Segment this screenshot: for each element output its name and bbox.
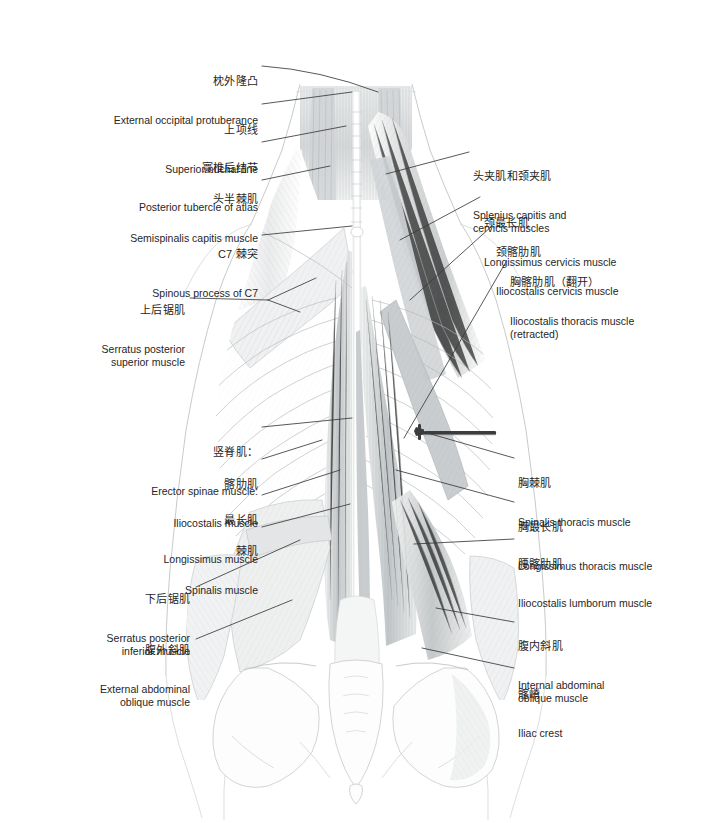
label-serratus-posterior-superior-muscle: 上后锯肌 Serratus posterior superior muscle: [45, 277, 185, 395]
label-cn: 下后锯肌: [50, 592, 190, 606]
label-cn: 髂嵴: [518, 687, 711, 701]
label-cn: 头夹肌和颈夹肌: [473, 169, 703, 183]
label-en: Serratus posterior superior muscle: [45, 343, 185, 369]
label-cn: 腹内斜肌: [518, 639, 711, 653]
label-cn: 棘肌: [58, 544, 258, 558]
label-iliocostalis-thoracis-muscle-retracted: 胸髂肋肌（翻开） Iliocostalis thoracis muscle (r…: [510, 249, 711, 367]
label-en: Iliac crest: [518, 727, 711, 740]
label-cn: 胸髂肋肌（翻开）: [510, 275, 711, 289]
label-cn: 胸棘肌: [518, 476, 711, 490]
anatomy-plate: 枕外隆凸 External occipital protuberance 上项线…: [0, 0, 711, 823]
label-en: External abdominal oblique muscle: [50, 683, 190, 709]
label-cn: C7 棘突: [58, 247, 258, 261]
label-cn: 腹外斜肌: [50, 643, 190, 657]
label-en: Iliocostalis thoracis muscle (retracted): [510, 315, 711, 341]
label-cn: 枕外隆凸: [58, 74, 258, 88]
label-cn: 腰髂肋肌: [518, 557, 711, 571]
label-cn: 头半棘肌: [58, 192, 258, 206]
label-cn: 上后锯肌: [45, 303, 185, 317]
label-en: Iliocostalis lumborum muscle: [518, 597, 711, 610]
pelvis-bone-group: [213, 660, 499, 804]
label-external-abdominal-oblique-muscle: 腹外斜肌 External abdominal oblique muscle: [50, 617, 190, 735]
label-iliac-crest: 髂嵴 Iliac crest: [518, 661, 711, 766]
